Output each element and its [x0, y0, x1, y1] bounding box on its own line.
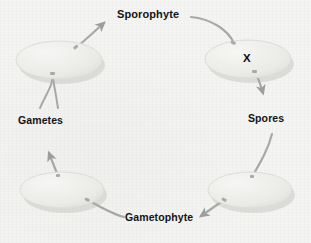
label-spores: Spores	[248, 113, 284, 124]
line-gametophyte-to-disc	[88, 200, 124, 217]
line-spores-to-germination	[252, 134, 272, 177]
label-gametes: Gametes	[18, 115, 63, 126]
label-gametophyte: Gametophyte	[125, 212, 193, 223]
line-sporophyte-to-x	[191, 17, 234, 43]
life-cycle-diagram: Sporophyte X Spores Gametophyte Gametes	[0, 0, 311, 243]
gametophyte-stage-disc	[20, 172, 104, 208]
label-x: X	[243, 53, 251, 65]
spore-stage-disc	[208, 172, 292, 208]
zygote-stage-disc	[16, 41, 102, 79]
label-sporophyte: Sporophyte	[117, 9, 179, 20]
